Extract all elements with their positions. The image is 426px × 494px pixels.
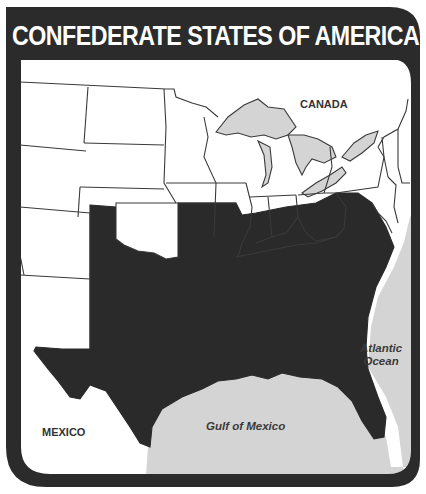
- label-mexico: MEXICO: [42, 426, 85, 438]
- label-atlantic-ocean: Atlantic Ocean: [360, 342, 402, 368]
- label-canada: CANADA: [300, 98, 348, 110]
- label-atlantic-line2: Ocean: [360, 355, 402, 368]
- label-atlantic-line1: Atlantic: [360, 342, 402, 355]
- map-frame: [6, 7, 420, 487]
- label-gulf-of-mexico: Gulf of Mexico: [206, 420, 285, 433]
- map-graphic: [6, 7, 420, 487]
- map-title: CONFEDERATE STATES OF AMERICA: [12, 12, 356, 60]
